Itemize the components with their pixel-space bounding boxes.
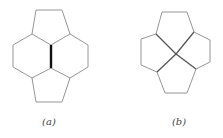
graph-edge [32, 78, 36, 102]
graph-edge [157, 54, 176, 72]
graph-edge [141, 65, 157, 72]
graph-edge [176, 32, 194, 54]
graph-edge [196, 62, 210, 69]
graph-edge [141, 34, 156, 39]
graph-edge [70, 67, 88, 78]
graph-edge [156, 34, 176, 54]
graph-edge [51, 34, 70, 45]
graph-edge [62, 78, 70, 102]
graph-edge [32, 10, 36, 34]
graph-edge [156, 12, 162, 34]
graph-edge [157, 72, 165, 93]
figure-a-label: (a) [34, 116, 64, 127]
graph-edge [51, 68, 70, 78]
graph-edge [187, 69, 196, 93]
figure-a-hexagon-pentagon-graph [13, 10, 88, 102]
graph-edge [70, 34, 88, 45]
graph-edge [176, 54, 196, 69]
graph-edge [62, 10, 70, 34]
graph-edge [13, 67, 32, 78]
graph-edge [32, 68, 51, 78]
graph-edge [187, 12, 194, 32]
graph-edge [32, 34, 51, 45]
graph-edge [194, 32, 210, 40]
figure-b-label: (b) [164, 116, 194, 127]
graph-edge [13, 34, 32, 45]
figure-b-four-pentagon-graph [141, 12, 210, 93]
